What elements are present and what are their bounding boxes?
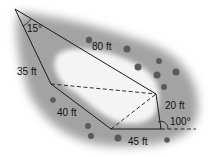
tree-icon: [124, 46, 131, 53]
top-side-label: 80 ft: [92, 42, 111, 52]
right-side-label: 20 ft: [165, 101, 184, 111]
tree-icon: [154, 72, 161, 79]
tree-icon: [88, 133, 94, 139]
tree-icon: [85, 123, 91, 129]
tree-icon: [173, 69, 180, 76]
tree-icon: [156, 58, 162, 64]
tree-icon: [161, 84, 167, 90]
left-upper-side-label: 35 ft: [17, 67, 36, 77]
left-lower-side-label: 40 ft: [57, 108, 76, 118]
bottom-side-label: 45 ft: [128, 137, 147, 147]
apex-angle-label: 15°: [27, 24, 42, 34]
tree-icon: [164, 137, 170, 143]
tree-icon: [50, 97, 56, 103]
tree-icon: [135, 64, 142, 71]
exterior-angle-label: 100°: [170, 117, 191, 127]
tree-icon: [115, 135, 122, 142]
